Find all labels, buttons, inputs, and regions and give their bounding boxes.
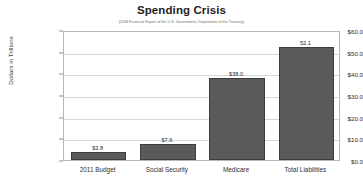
bar: [71, 152, 126, 160]
bar-value-label: $3.8: [70, 145, 125, 151]
bar-value-label: 52.1: [278, 40, 333, 46]
bar: [140, 144, 195, 160]
chart-subtitle: (2008 Financial Report of the U.S. Gover…: [0, 19, 363, 25]
bar: [209, 78, 264, 160]
chart-title: Spending Crisis: [0, 4, 363, 17]
x-axis-category-label: Social Security: [132, 166, 201, 173]
x-axis-category-label: 2011 Budget: [63, 166, 132, 173]
x-axis-category-label: Total Liabilities: [271, 166, 340, 173]
bar-chart: Spending Crisis (2008 Financial Report o…: [0, 0, 363, 188]
y-axis-title: Dollars in Trillions: [7, 13, 14, 109]
x-axis-category-label: Medicare: [202, 166, 271, 173]
bar-value-label: $38.0: [208, 71, 263, 77]
plot-area: [63, 31, 340, 161]
bar: [279, 47, 334, 160]
bar-value-label: $7.6: [139, 137, 194, 143]
